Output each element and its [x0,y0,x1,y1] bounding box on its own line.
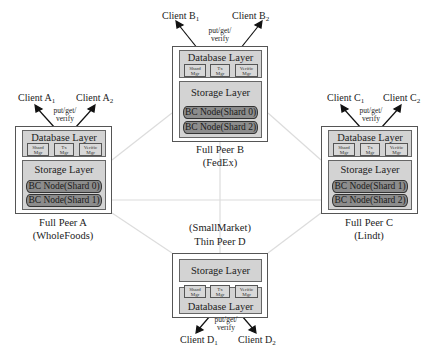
tx-manager: TxMgr [360,143,380,156]
client-c2-label: Client C2 [383,92,420,103]
thin-peer-d-org: (SmallMarket) [170,221,270,234]
full-peer-b-org: (FedEx) [170,156,270,169]
database-layer-label: Database Layer [180,301,261,312]
tx-manager: TxMgr [210,64,230,77]
storage-layer: Storage Layer [179,259,262,282]
storage-layer: Storage Layer BC Node(Shard 0) BC Node(S… [22,160,106,210]
full-peer-b-name: Full Peer B [170,143,270,156]
full-peer-a-name: Full Peer A [13,216,113,229]
full-peer-a-box: Database Layer ShardMgr TxMgr VerificMgr… [15,126,112,214]
storage-layer: Storage Layer BC Node(Shard 0) BC Node(S… [179,81,262,138]
database-layer-label: Database Layer [329,132,411,143]
bc-node-shard: BC Node(Shard 0) [183,106,258,119]
client-c1-label: Client C1 [327,92,364,103]
database-layer-label: Database Layer [180,52,261,63]
storage-layer-label: Storage Layer [180,265,261,276]
client-link-label-a: put/get/verify [45,107,85,123]
client-a2-label: Client A2 [76,92,113,103]
database-layer: Database Layer ShardMgr TxMgr VerificMgr [22,130,106,157]
verification-manager: VerificMgr [235,285,258,298]
connection-a-d [112,213,172,253]
client-a1-label: Client A1 [18,92,55,103]
connection-b-c [268,113,321,160]
shard-manager: ShardMgr [184,64,206,77]
shard-manager: ShardMgr [333,143,355,156]
client-b1-label: Client B1 [162,10,199,21]
client-link-label-c: put/get/verify [351,107,391,123]
thin-peer-d-box: Storage Layer ShardMgr TxMgr VerificMgr … [172,253,268,318]
verification-manager: VerificMgr [235,64,258,77]
database-layer: Database Layer ShardMgr TxMgr VerificMgr [179,50,262,78]
client-link-label-d: put/get/verify [206,316,246,332]
client-link-label-b: put/get/verify [200,27,240,43]
connection-c-d [268,213,321,253]
database-layer-label: Database Layer [23,132,105,143]
tx-manager: TxMgr [54,143,74,156]
database-layer: Database Layer ShardMgr TxMgr VerificMgr [328,130,412,157]
client-b2-label: Client B2 [232,10,269,21]
storage-layer: Storage Layer BC Node(Shard 1) BC Node(S… [328,160,412,210]
shard-manager: ShardMgr [27,143,49,156]
bc-node-shard: BC Node(Shard 2) [183,121,258,134]
full-peer-b-box: Database Layer ShardMgr TxMgr VerificMgr… [172,46,268,142]
bc-node-shard: BC Node(Shard 1) [332,180,408,193]
bc-node-shard: BC Node(Shard 0) [26,180,102,193]
storage-layer-label: Storage Layer [23,164,105,175]
client-d2-label: Client D2 [238,334,276,345]
full-peer-a-org: (WholeFoods) [13,229,113,242]
full-peer-c-name: Full Peer C [319,216,419,229]
verification-manager: VerificMgr [385,143,408,156]
shard-manager: ShardMgr [184,285,206,298]
tx-manager: TxMgr [210,285,230,298]
storage-layer-label: Storage Layer [329,164,411,175]
verification-manager: VerificMgr [79,143,102,156]
connection-a-b [112,113,172,160]
bc-node-shard: BC Node(Shard 2) [332,194,408,207]
database-layer: ShardMgr TxMgr VerificMgr Database Layer [179,287,262,314]
client-d1-label: Client D1 [180,334,218,345]
storage-layer-label: Storage Layer [180,87,261,98]
full-peer-c-box: Database Layer ShardMgr TxMgr VerificMgr… [321,126,418,214]
bc-node-shard: BC Node(Shard 1) [26,194,102,207]
full-peer-c-org: (Lindt) [319,229,419,242]
thin-peer-d-name: Thin Peer D [170,235,270,248]
